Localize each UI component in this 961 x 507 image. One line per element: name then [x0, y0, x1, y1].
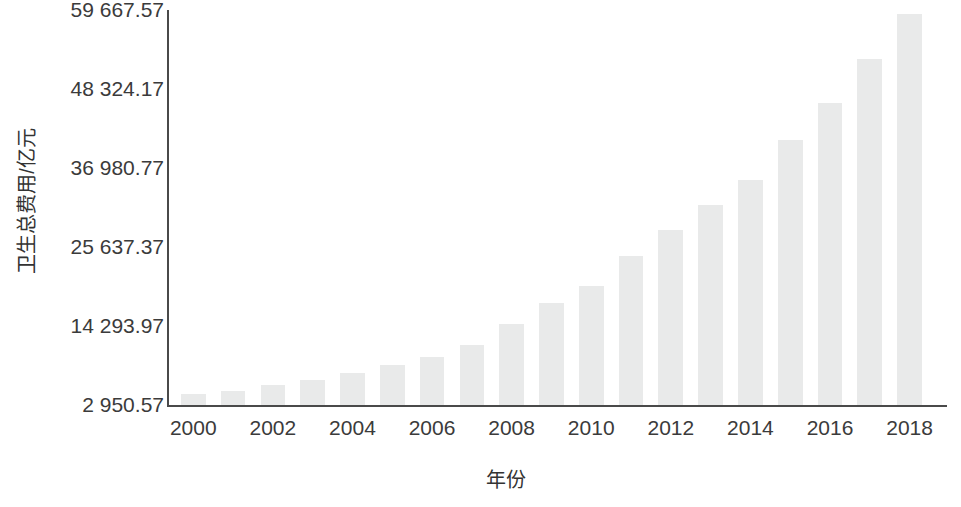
x-axis-title: 年份	[0, 464, 961, 493]
x-tick-label: 2004	[317, 416, 387, 440]
y-tick-label: 59 667.57	[29, 0, 164, 20]
y-tick-label: 2 950.57	[29, 394, 164, 415]
x-axis-tick-labels: 2000200220042006200820102012201420162018	[167, 0, 957, 460]
bar-chart: 卫生总费用/亿元 59 667.57 48 324.17 36 980.77 2…	[0, 0, 961, 507]
x-tick-label: 2000	[158, 416, 228, 440]
y-tick-label: 25 637.37	[29, 236, 164, 257]
y-axis-tick-labels: 59 667.57 48 324.17 36 980.77 25 637.37 …	[18, 0, 164, 430]
y-tick-label: 14 293.97	[29, 315, 164, 336]
x-tick-label: 2014	[715, 416, 785, 440]
x-tick-label: 2016	[795, 416, 865, 440]
x-tick-label: 2010	[556, 416, 626, 440]
x-tick-label: 2008	[477, 416, 547, 440]
x-tick-label: 2006	[397, 416, 467, 440]
y-tick-label: 36 980.77	[29, 157, 164, 178]
x-tick-label: 2018	[875, 416, 945, 440]
y-tick-label: 48 324.17	[29, 78, 164, 99]
x-tick-label: 2012	[636, 416, 706, 440]
x-tick-label: 2002	[238, 416, 308, 440]
